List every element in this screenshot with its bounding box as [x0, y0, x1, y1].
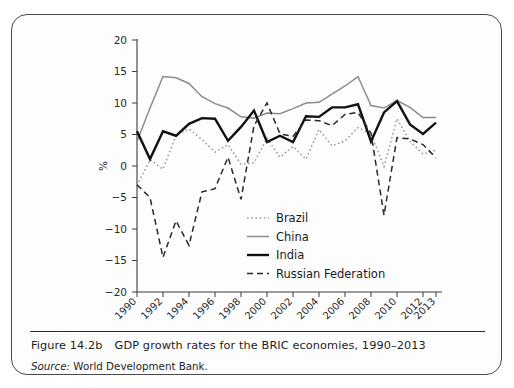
x-axis-tick-label: 2000 — [243, 296, 269, 322]
x-axis-tick-label: 2006 — [321, 296, 347, 322]
y-axis-tick-label: 0 — [120, 160, 127, 172]
chart-plot-area: 20151050−5−10−15−20199019921994199619982… — [12, 15, 503, 331]
figure-caption: Figure 14.2bGDP growth rates for the BRI… — [31, 339, 426, 352]
x-axis-tick-label: 2010 — [373, 296, 399, 322]
source-label: Source: — [31, 360, 70, 372]
y-axis-title: % — [97, 161, 109, 171]
x-axis-tick-label: 1994 — [165, 296, 191, 322]
figure-source: Source: World Development Bank. — [31, 360, 208, 372]
figure-number: Figure 14.2b — [31, 339, 103, 352]
x-axis-tick-label: 2004 — [295, 296, 321, 322]
x-axis-tick-label: 1998 — [217, 296, 243, 322]
figure-caption-text: GDP growth rates for the BRIC economies,… — [115, 339, 426, 352]
y-axis-tick-label: −5 — [112, 191, 127, 203]
y-axis-tick-label: 10 — [114, 97, 127, 109]
caption-divider — [30, 331, 485, 332]
series-line-india — [137, 101, 436, 159]
legend-label-china[interactable]: China — [276, 230, 309, 244]
x-axis-tick-label: 2008 — [347, 296, 373, 322]
y-axis-tick-label: 20 — [114, 34, 127, 46]
y-axis-tick-label: 5 — [120, 128, 127, 140]
x-axis-tick-label: 1996 — [191, 296, 217, 322]
y-axis-tick-label: −10 — [105, 223, 127, 235]
y-axis-tick-label: −20 — [105, 286, 127, 298]
gdp-growth-line-chart: 20151050−5−10−15−20199019921994199619982… — [12, 15, 503, 331]
y-axis-tick-label: −15 — [105, 254, 127, 266]
y-axis-tick-label: 15 — [114, 65, 127, 77]
x-axis-tick-label: 1992 — [139, 296, 165, 322]
legend-label-india[interactable]: India — [276, 248, 304, 262]
figure-card: 20151050−5−10−15−20199019921994199619982… — [11, 14, 502, 375]
legend-label-brazil[interactable]: Brazil — [276, 211, 308, 225]
legend-label-russian-federation[interactable]: Russian Federation — [276, 267, 385, 281]
x-axis-tick-label: 1990 — [113, 296, 139, 322]
x-axis-tick-label: 2002 — [269, 296, 295, 322]
source-text: World Development Bank. — [73, 360, 208, 372]
